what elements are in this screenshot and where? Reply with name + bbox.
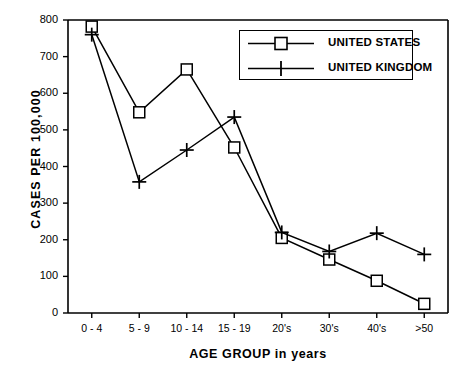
square-marker-icon xyxy=(240,31,326,56)
data-point-square xyxy=(134,107,145,118)
y-tick-label: 600 xyxy=(14,86,58,98)
chart-legend: UNITED STATES UNITED KINGDOM xyxy=(239,30,413,80)
data-point-square xyxy=(419,298,430,309)
data-point-square xyxy=(229,142,240,153)
y-tick-label: 700 xyxy=(14,50,58,62)
legend-item-united-kingdom: UNITED KINGDOM xyxy=(240,56,412,81)
plus-marker-icon xyxy=(240,56,326,81)
y-tick-label: 300 xyxy=(14,196,58,208)
x-tick-label: >50 xyxy=(396,322,452,334)
y-tick-label: 800 xyxy=(14,13,58,25)
data-point-square xyxy=(181,64,192,75)
y-tick-label: 0 xyxy=(14,306,58,318)
legend-label-united-states: UNITED STATES xyxy=(328,36,420,48)
y-tick-label: 400 xyxy=(14,160,58,172)
y-tick-label: 500 xyxy=(14,123,58,135)
data-point-square xyxy=(371,275,382,286)
legend-item-united-states: UNITED STATES xyxy=(240,31,412,56)
y-tick-label: 100 xyxy=(14,269,58,281)
legend-label-united-kingdom: UNITED KINGDOM xyxy=(328,61,432,73)
chart-figure: CASES PER 100,000 AGE GROUP in years 010… xyxy=(0,0,471,379)
x-axis-title: AGE GROUP in years xyxy=(68,347,448,361)
y-tick-label: 200 xyxy=(14,233,58,245)
